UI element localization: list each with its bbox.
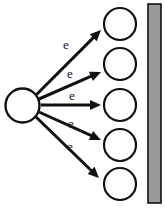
- diagram-canvas: eeeee: [0, 0, 165, 208]
- electron-label-3: e: [69, 88, 75, 103]
- source-node-group: [6, 89, 40, 123]
- target-circle-4: [104, 129, 136, 161]
- target-circle-3: [104, 89, 136, 121]
- electron-emission-diagram: eeeee: [0, 0, 165, 208]
- absorber-bar-group: [148, 4, 161, 203]
- absorber-bar: [148, 4, 161, 203]
- electron-label-1: e: [63, 37, 69, 52]
- electron-label-4: e: [68, 116, 74, 131]
- target-circle-1: [104, 8, 136, 40]
- target-circle-2: [104, 48, 136, 80]
- target-circle-5: [104, 168, 136, 200]
- electron-label-2: e: [67, 66, 73, 81]
- electron-label-5: e: [67, 139, 73, 154]
- target-nodes-group: [104, 8, 136, 200]
- source-circle: [6, 89, 40, 123]
